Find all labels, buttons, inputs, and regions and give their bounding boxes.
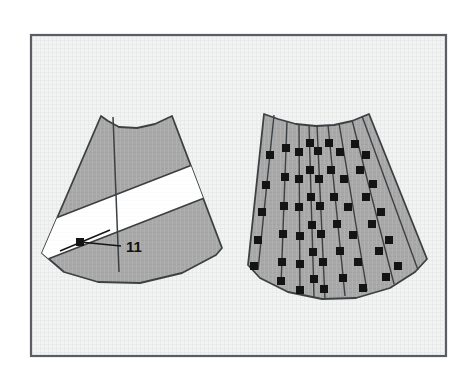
seam-marker bbox=[327, 166, 335, 174]
seam-marker bbox=[394, 262, 402, 270]
seam-marker bbox=[262, 181, 270, 189]
marked-point-square bbox=[76, 238, 84, 246]
seam-marker bbox=[320, 285, 328, 293]
seam-marker bbox=[354, 258, 362, 266]
seam-marker bbox=[315, 175, 323, 183]
seam-marker bbox=[295, 175, 303, 183]
seam-marker bbox=[296, 260, 304, 268]
seam-marker bbox=[295, 148, 303, 156]
seam-marker bbox=[254, 236, 262, 244]
seam-marker bbox=[336, 148, 344, 156]
seam-marker bbox=[296, 232, 304, 240]
seam-marker bbox=[306, 139, 314, 147]
diagram-canvas: 11 bbox=[0, 0, 471, 373]
seam-marker bbox=[314, 147, 322, 155]
seam-marker bbox=[258, 208, 266, 216]
seam-marker bbox=[385, 236, 393, 244]
seam-marker bbox=[362, 151, 370, 159]
seam-marker bbox=[317, 230, 325, 238]
fan-panel-diagram: 11 bbox=[0, 0, 471, 373]
seam-marker bbox=[279, 230, 287, 238]
seam-marker bbox=[382, 273, 390, 281]
seam-marker bbox=[359, 284, 367, 292]
seam-marker bbox=[369, 180, 377, 188]
seam-marker bbox=[377, 208, 385, 216]
seam-marker bbox=[295, 203, 303, 211]
seam-marker bbox=[281, 173, 289, 181]
seam-marker bbox=[362, 193, 370, 201]
seam-marker bbox=[316, 202, 324, 210]
seam-marker bbox=[375, 247, 383, 255]
seam-marker bbox=[336, 247, 344, 255]
seam-marker bbox=[344, 203, 352, 211]
seam-marker bbox=[339, 274, 347, 282]
seam-marker bbox=[306, 166, 314, 174]
seam-marker bbox=[330, 193, 338, 201]
seam-marker bbox=[308, 221, 316, 229]
seam-marker bbox=[340, 175, 348, 183]
seam-marker bbox=[282, 144, 290, 152]
seam-marker bbox=[296, 286, 304, 294]
seam-marker bbox=[325, 139, 333, 147]
seam-marker bbox=[266, 151, 274, 159]
seam-marker bbox=[277, 277, 285, 285]
seam-marker bbox=[250, 262, 258, 270]
seam-marker bbox=[280, 202, 288, 210]
seam-marker bbox=[309, 248, 317, 256]
seam-marker bbox=[307, 193, 315, 201]
seam-marker bbox=[368, 220, 376, 228]
seam-marker bbox=[351, 140, 359, 148]
seam-marker bbox=[356, 166, 364, 174]
callout-label-11: 11 bbox=[126, 238, 142, 255]
seam-marker bbox=[319, 258, 327, 266]
seam-marker bbox=[278, 258, 286, 266]
seam-marker bbox=[310, 275, 318, 283]
seam-marker bbox=[349, 231, 357, 239]
seam-marker bbox=[333, 220, 341, 228]
